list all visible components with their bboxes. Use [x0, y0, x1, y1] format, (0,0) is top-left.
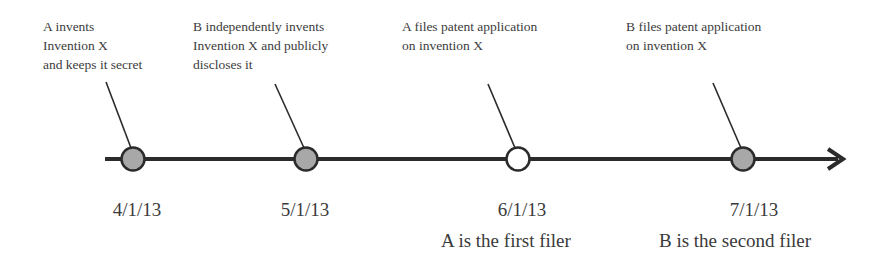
event-node-4 — [732, 148, 755, 171]
event-node-1 — [122, 148, 145, 171]
event-date-2: 5/1/13 — [255, 199, 355, 221]
event-node-2 — [295, 148, 318, 171]
leader-line-4 — [713, 83, 741, 148]
event-caption-1: A invents Invention X and keeps it secre… — [43, 17, 142, 74]
event-caption-4: B files patent application on invention … — [626, 17, 761, 55]
event-date-4: 7/1/13 — [704, 199, 804, 221]
leader-line-2 — [275, 84, 304, 148]
event-date-3: 6/1/13 — [472, 199, 572, 221]
event-caption-3: A files patent application on invention … — [402, 17, 537, 55]
second-filer-note: B is the second filer — [659, 230, 811, 252]
event-node-3 — [507, 148, 530, 171]
event-caption-2: B independently invents Invention X and … — [193, 17, 328, 74]
first-filer-note: A is the first filer — [441, 230, 571, 252]
event-date-1: 4/1/13 — [87, 199, 187, 221]
leader-line-1 — [106, 82, 131, 148]
leader-line-3 — [488, 84, 515, 148]
